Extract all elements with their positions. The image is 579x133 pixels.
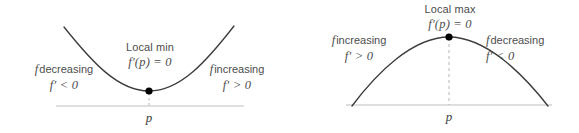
local-max-equation: f′(p) = 0 <box>408 17 492 33</box>
panel-local-min: Local min f′(p) = 0 fdecreasing f′ < 0 f… <box>0 0 290 133</box>
critical-point-marker <box>145 87 152 94</box>
axis-label-p: p <box>139 110 159 126</box>
panel-local-max: Local max f′(p) = 0 fincreasing f′ > 0 f… <box>290 0 579 133</box>
left-increasing-annotation: fincreasing f′ > 0 <box>312 29 406 65</box>
right-monotonicity-word: increasing <box>214 63 264 75</box>
local-max-annotation: Local max f′(p) = 0 <box>408 3 492 32</box>
local-min-title: Local min <box>109 41 191 55</box>
critical-point-marker <box>445 33 452 40</box>
left-decreasing-annotation: fdecreasing f′ < 0 <box>14 58 114 94</box>
right-decreasing-annotation: fdecreasing f′ < 0 <box>486 29 579 65</box>
left-monotonicity-word: decreasing <box>39 63 93 75</box>
right-increasing-annotation: fincreasing f′ > 0 <box>190 58 284 94</box>
right-derivative-inequality: f′ > 0 <box>190 78 284 94</box>
left-derivative-inequality: f′ < 0 <box>14 78 114 94</box>
figure-root: Local min f′(p) = 0 fdecreasing f′ < 0 f… <box>0 0 579 133</box>
local-min-equation: f′(p) = 0 <box>109 55 191 71</box>
right-derivative-inequality: f′ < 0 <box>486 49 579 65</box>
right-f-label: fdecreasing <box>486 29 579 49</box>
left-f-label: fdecreasing <box>14 58 114 78</box>
right-f-label: fincreasing <box>190 58 284 78</box>
right-monotonicity-word: decreasing <box>490 34 544 46</box>
left-f-label: fincreasing <box>312 29 406 49</box>
axis-label-p: p <box>439 109 459 125</box>
left-derivative-inequality: f′ > 0 <box>312 49 406 65</box>
local-max-title: Local max <box>408 3 492 17</box>
local-min-annotation: Local min f′(p) = 0 <box>109 41 191 70</box>
left-monotonicity-word: increasing <box>336 34 386 46</box>
